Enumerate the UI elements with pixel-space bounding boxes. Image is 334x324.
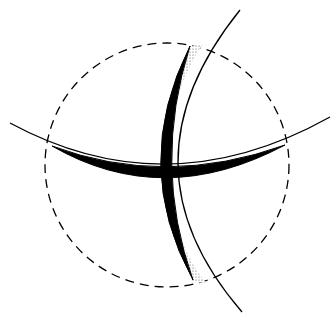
- crossing-lenses-diagram: [0, 0, 334, 324]
- diagram-canvas: [0, 0, 334, 324]
